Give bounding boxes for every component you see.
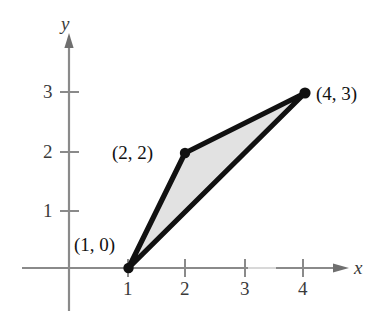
y-axis-arrow-icon: [64, 33, 73, 48]
shaded-triangle-region: [129, 93, 306, 268]
y-tick-label-1: 1: [43, 201, 53, 220]
x-axis: [22, 259, 349, 277]
x-tick-label-3: 3: [240, 279, 250, 298]
y-axis: [60, 33, 79, 311]
vertex-point-4-3: [299, 87, 310, 98]
vertex-label-4-3: (4, 3): [316, 84, 357, 103]
plot-canvas: [0, 0, 392, 325]
vertex-label-1-0: (1, 0): [74, 235, 115, 254]
vertex-label-2-2: (2, 2): [112, 143, 153, 162]
vertex-point-1-0: [123, 263, 133, 273]
vertex-point-2-2: [180, 148, 190, 158]
y-tick-label-2: 2: [43, 142, 53, 161]
x-axis-arrow-icon: [333, 263, 349, 272]
y-tick-label-3: 3: [43, 82, 53, 101]
y-axis-label: y: [61, 14, 69, 33]
x-tick-label-1: 1: [123, 279, 133, 298]
x-axis-label: x: [354, 258, 362, 277]
triangle-plot-figure: y x 3 2 1 1 2 3 4 (1, 0) (2, 2) (4, 3): [0, 0, 392, 325]
x-tick-label-2: 2: [180, 279, 190, 298]
x-tick-label-4: 4: [298, 279, 308, 298]
